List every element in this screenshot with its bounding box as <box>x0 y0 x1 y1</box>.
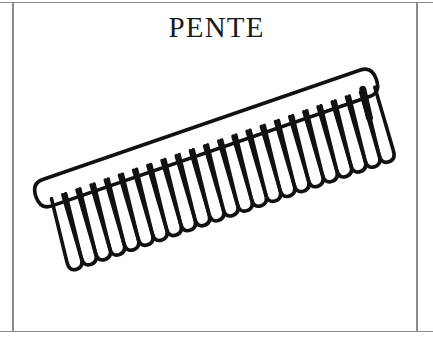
comb-drawing <box>31 66 403 274</box>
comb-illustration <box>12 3 417 332</box>
illustration-page: PENTE <box>0 0 433 340</box>
